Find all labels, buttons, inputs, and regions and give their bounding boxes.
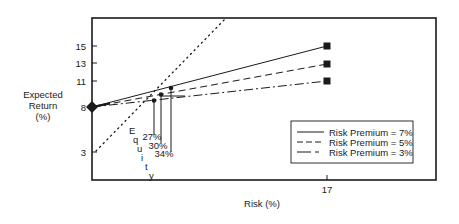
- legend: Risk Premium = 7% Risk Premium = 5% Risk…: [291, 121, 413, 163]
- endpoint-marker-3: [324, 78, 331, 85]
- y-tick-3: 3: [81, 147, 86, 158]
- x-tick-17: 17: [322, 184, 333, 195]
- endpoint-marker-5: [324, 61, 331, 68]
- y-tick-15: 15: [75, 41, 86, 52]
- line-risk-premium-5: [92, 64, 327, 107]
- equity-letter-i: i: [141, 152, 143, 163]
- chart-canvas: 15 13 11 8 3 17 Expected Return (%) Risk…: [0, 0, 459, 224]
- equity-letter-t: t: [145, 161, 148, 172]
- endpoint-marker-7: [324, 43, 331, 50]
- line-risk-premium-3: [92, 81, 327, 107]
- line-risk-premium-7: [92, 46, 327, 107]
- equity-letter-y: y: [149, 170, 154, 181]
- y-axis-label-line1: Expected: [23, 89, 63, 100]
- y-axis-label-line3: (%): [36, 111, 51, 122]
- x-axis-label: Risk (%): [244, 198, 280, 209]
- y-tick-8: 8: [81, 102, 86, 113]
- y-tick-13: 13: [75, 58, 86, 69]
- y-axis-label-line2: Return: [29, 100, 58, 111]
- origin-diamond-marker: [86, 101, 98, 113]
- label-34-percent: 34%: [154, 148, 174, 159]
- y-tick-11: 11: [76, 76, 86, 87]
- legend-label-3: Risk Premium = 3%: [329, 147, 413, 158]
